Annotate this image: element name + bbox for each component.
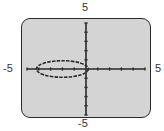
plot-area: [0, 0, 164, 131]
